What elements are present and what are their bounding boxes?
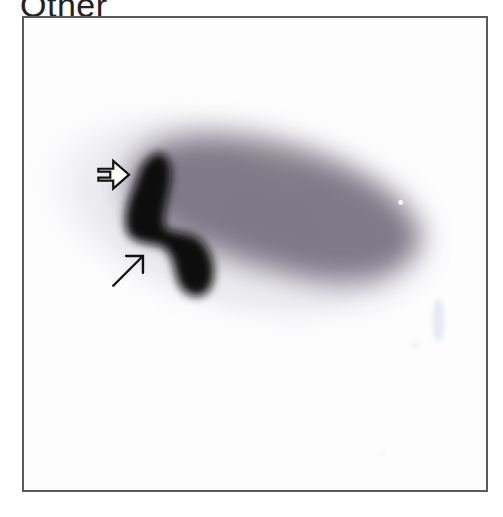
scan-image-frame	[22, 16, 488, 492]
bright-spot	[398, 200, 403, 205]
scan-image	[24, 18, 486, 490]
